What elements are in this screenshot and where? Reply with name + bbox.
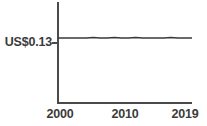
x-axis-tick-label-2010: 2010	[105, 106, 145, 122]
x-axis-tick-label-2000: 2000	[40, 106, 80, 122]
line-chart: US$0.13 2000 2010 2019	[0, 0, 207, 126]
plot-area	[58, 3, 192, 103]
y-axis-tick-label: US$0.13	[0, 35, 52, 50]
x-axis-tick-label-2019: 2019	[165, 106, 205, 122]
series-price-line	[58, 3, 192, 103]
x-axis-tick-labels: 2000 2010 2019	[0, 106, 207, 124]
